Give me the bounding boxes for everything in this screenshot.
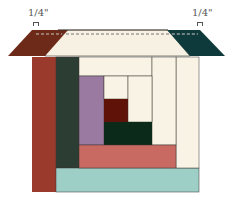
dark-green-column bbox=[56, 57, 79, 168]
brown-column bbox=[32, 57, 56, 192]
quilt-block-diagram bbox=[0, 0, 230, 198]
far-right-cream-column bbox=[176, 57, 199, 168]
teal-bottom-strip bbox=[56, 168, 199, 192]
inner-right-cream-column bbox=[128, 76, 152, 122]
dark-red-center-square bbox=[104, 99, 128, 122]
center-cream-square bbox=[104, 76, 128, 99]
top-cream-strip bbox=[79, 57, 152, 76]
dark-green-block bbox=[104, 122, 152, 145]
salmon-strip bbox=[79, 145, 176, 168]
right-cream-column bbox=[152, 57, 176, 145]
purple-column bbox=[79, 76, 104, 145]
